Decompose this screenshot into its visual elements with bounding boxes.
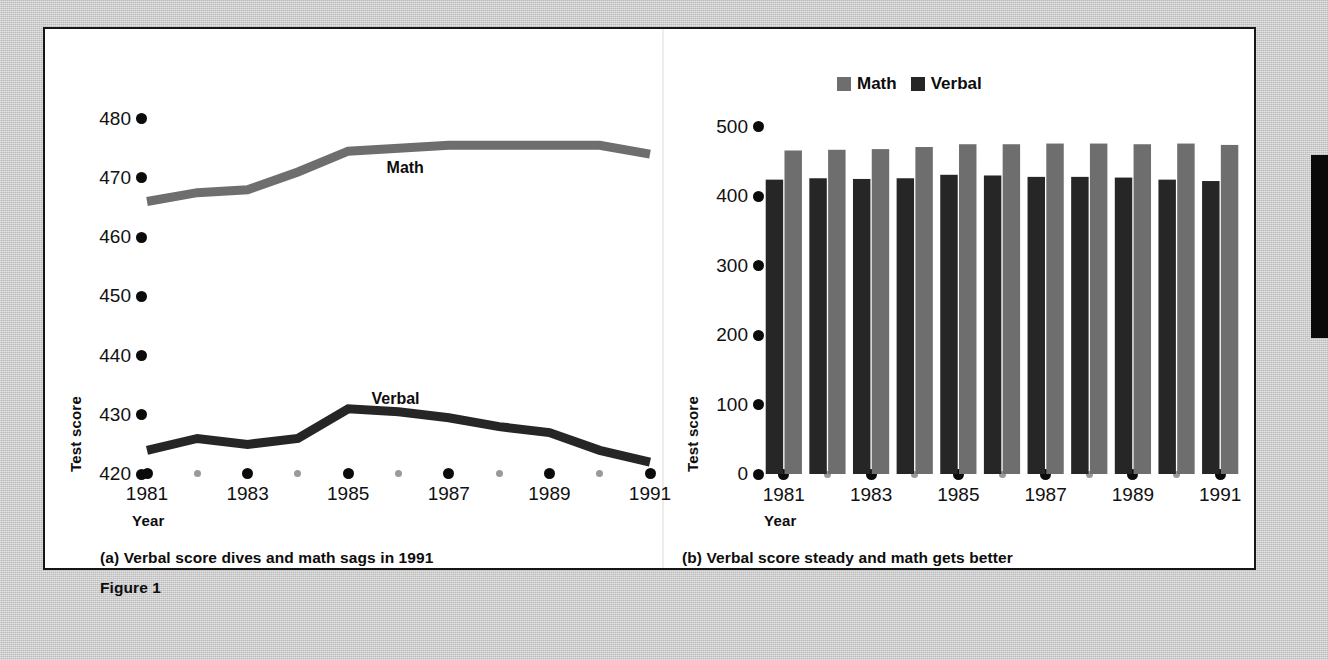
chart-b-bar-math: [1134, 144, 1151, 474]
chart-b-x-tick-label: 1985: [937, 484, 979, 506]
chart-a-y-tick: 480: [87, 108, 147, 130]
chart-a-series-label-math: Math: [387, 159, 424, 177]
chart-a-series-verbal: [147, 409, 650, 462]
chart-a-y-axis-label: Test score: [67, 396, 84, 472]
chart-b-y-tick-label: 200: [704, 324, 748, 346]
chart-b-bar-verbal: [853, 179, 870, 474]
chart-b-bar-verbal: [984, 175, 1001, 474]
chart-b-y-axis-label: Test score: [684, 396, 701, 472]
chart-b-bar-math: [1046, 144, 1063, 474]
chart-b-y-tick: 200: [704, 324, 764, 346]
chart-b-bar-math: [784, 150, 801, 474]
chart-b-y-tick-label: 300: [704, 255, 748, 277]
chart-b-y-tick: 100: [704, 394, 764, 416]
chart-a-y-tick-label: 450: [87, 285, 131, 307]
chart-b-bar-math: [828, 150, 845, 474]
chart-a-x-tick-label: 1987: [428, 483, 470, 505]
chart-b-plot-area: [762, 113, 1242, 474]
legend-item-verbal[interactable]: Verbal: [911, 74, 982, 94]
chart-b-x-tick-label: 1987: [1024, 484, 1066, 506]
chart-b-bar-verbal: [1071, 177, 1088, 474]
chart-b-y-tick: 500: [704, 116, 764, 138]
chart-b-caption: (b) Verbal score steady and math gets be…: [682, 549, 1013, 567]
chart-b-bar-verbal: [897, 178, 914, 474]
chart-b-x-tick-label: 1989: [1112, 484, 1154, 506]
figure-panel: Test score 480470460450440430420 1981198…: [43, 27, 1256, 570]
legend-label-math: Math: [857, 74, 897, 94]
chart-b-x-tick-label: 1983: [850, 484, 892, 506]
legend-label-verbal: Verbal: [931, 74, 982, 94]
chart-a-plot-area: [145, 89, 662, 474]
chart-a-x-tick-label: 1989: [528, 483, 570, 505]
chart-b-y-tick: 400: [704, 185, 764, 207]
chart-a-x-tick-label: 1985: [327, 483, 369, 505]
chart-a-line: Test score 480470460450440430420 1981198…: [45, 29, 662, 568]
chart-b-bar-math: [872, 149, 889, 474]
chart-b-bar: Math Verbal Test score 5004003002001000 …: [662, 29, 1254, 568]
chart-b-bar-math: [1221, 145, 1238, 474]
chart-b-legend: Math Verbal: [837, 74, 982, 94]
chart-a-series-label-verbal: Verbal: [371, 390, 419, 408]
chart-b-x-tick-label: 1981: [763, 484, 805, 506]
chart-b-bar-math: [915, 147, 932, 474]
chart-b-y-tick-label: 500: [704, 116, 748, 138]
chart-a-caption: (a) Verbal score dives and math sags in …: [100, 549, 434, 567]
chart-b-bar-verbal: [809, 178, 826, 474]
chart-b-bar-math: [959, 144, 976, 474]
chart-a-y-tick-label: 430: [87, 404, 131, 426]
chart-a-x-tick-label: 1983: [226, 483, 268, 505]
chart-b-bar-verbal: [940, 175, 957, 474]
chart-b-bar-verbal: [1115, 178, 1132, 474]
legend-item-math[interactable]: Math: [837, 74, 897, 94]
chart-a-y-tick-label: 460: [87, 226, 131, 248]
chart-b-bar-verbal: [1202, 181, 1219, 474]
chart-a-y-tick: 430: [87, 404, 147, 426]
chart-b-bar-math: [1003, 144, 1020, 474]
chart-b-bar-math: [1177, 144, 1194, 474]
chart-a-y-tick: 450: [87, 285, 147, 307]
chart-a-x-axis-label: Year: [132, 512, 165, 529]
chart-a-y-tick-label: 480: [87, 108, 131, 130]
chart-a-x-tick-label: 1981: [126, 483, 168, 505]
figure-number-label: Figure 1: [100, 579, 161, 597]
chart-b-bar-verbal: [766, 180, 783, 474]
chart-a-y-tick: 470: [87, 167, 147, 189]
chart-b-y-tick-label: 0: [704, 463, 748, 485]
chart-b-y-tick: 300: [704, 255, 764, 277]
chart-b-bar-verbal: [1028, 177, 1045, 474]
chart-b-x-tick-label: 1991: [1199, 484, 1241, 506]
chart-a-y-tick-label: 470: [87, 167, 131, 189]
chart-a-y-tick: 440: [87, 345, 147, 367]
chart-a-y-tick: 460: [87, 226, 147, 248]
page-edge-tab-marker: [1311, 155, 1328, 338]
chart-b-x-axis-label: Year: [764, 512, 797, 529]
chart-b-y-tick-label: 100: [704, 394, 748, 416]
chart-b-bar-verbal: [1158, 180, 1175, 474]
chart-b-y-tick-label: 400: [704, 185, 748, 207]
legend-swatch-verbal-icon: [911, 77, 925, 91]
chart-b-bar-math: [1090, 144, 1107, 474]
legend-swatch-math-icon: [837, 77, 851, 91]
chart-a-y-tick-label: 440: [87, 345, 131, 367]
chart-b-x-tick-major: 1991: [1190, 469, 1250, 506]
